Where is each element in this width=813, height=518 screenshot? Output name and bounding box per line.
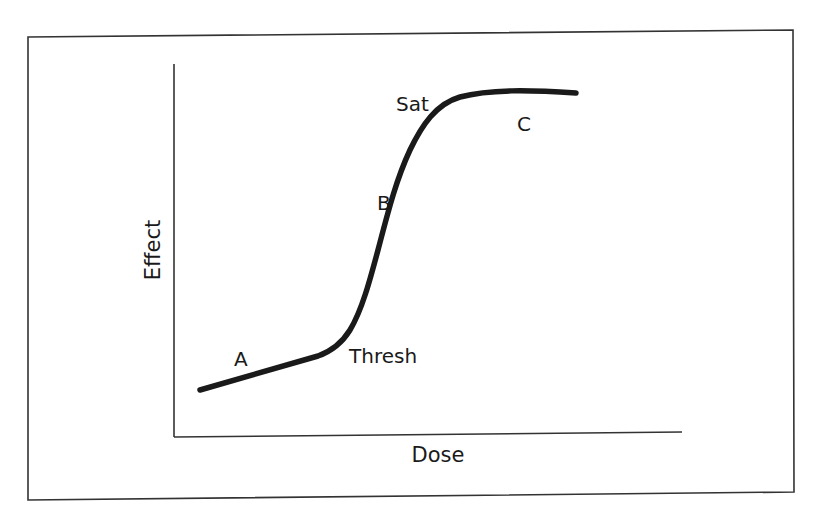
label-thresh: Thresh <box>348 344 417 368</box>
label-c: C <box>517 112 531 136</box>
y-axis-title: Effect <box>141 220 165 280</box>
label-a: A <box>234 347 248 371</box>
x-axis-title: Dose <box>412 443 465 467</box>
label-sat: Sat <box>396 92 429 116</box>
label-b: B <box>377 191 391 215</box>
dose-response-figure: A Thresh B Sat C Dose Effect <box>0 0 813 518</box>
x-axis <box>174 432 682 437</box>
